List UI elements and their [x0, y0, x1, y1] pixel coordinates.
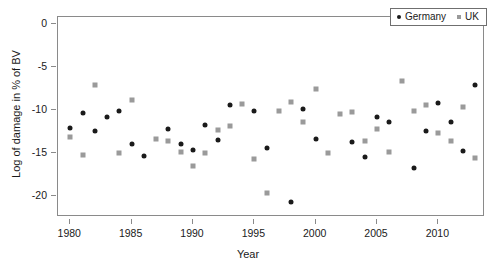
data-point-germany	[178, 142, 183, 147]
data-point-uk	[117, 151, 122, 156]
data-point-germany	[166, 126, 171, 131]
data-point-uk	[276, 108, 281, 113]
data-point-germany	[215, 137, 220, 142]
data-point-germany	[68, 125, 73, 130]
x-tick-mark	[253, 219, 254, 224]
data-point-germany	[387, 119, 392, 124]
x-tick-label: 2010	[426, 227, 449, 239]
data-point-germany	[362, 154, 367, 159]
data-point-germany	[141, 154, 146, 159]
data-point-uk	[190, 163, 195, 168]
y-axis-label: Log of damage in % of BV	[10, 19, 22, 209]
y-tick-mark	[51, 152, 56, 153]
x-tick-label: 1980	[58, 227, 81, 239]
data-point-uk	[460, 105, 465, 110]
x-tick-mark	[131, 219, 132, 224]
x-tick-mark	[376, 219, 377, 224]
legend-label-germany: Germany	[405, 12, 446, 22]
x-tick-mark	[315, 219, 316, 224]
square-marker-icon	[457, 15, 461, 19]
data-point-uk	[92, 82, 97, 87]
legend-entry-germany: Germany	[397, 12, 446, 22]
y-tick-mark	[51, 195, 56, 196]
y-tick-mark	[51, 66, 56, 67]
data-point-uk	[240, 101, 245, 106]
data-point-uk	[203, 150, 208, 155]
data-point-germany	[264, 146, 269, 151]
data-point-uk	[301, 119, 306, 124]
legend: Germany UK	[390, 8, 487, 26]
x-tick-label: 1990	[180, 227, 203, 239]
data-point-germany	[350, 140, 355, 145]
x-tick-label: 2005	[364, 227, 387, 239]
legend-label-uk: UK	[465, 12, 479, 22]
data-point-uk	[68, 135, 73, 140]
data-point-uk	[227, 124, 232, 129]
data-point-germany	[411, 166, 416, 171]
data-point-germany	[252, 109, 257, 114]
data-point-germany	[227, 103, 232, 108]
circle-marker-icon	[397, 15, 401, 19]
data-point-germany	[313, 136, 318, 141]
data-point-uk	[473, 155, 478, 160]
data-point-uk	[411, 108, 416, 113]
data-point-uk	[448, 139, 453, 144]
data-point-germany	[460, 148, 465, 153]
data-point-germany	[203, 123, 208, 128]
data-point-uk	[178, 149, 183, 154]
data-point-uk	[129, 98, 134, 103]
data-point-germany	[375, 115, 380, 120]
data-point-uk	[436, 130, 441, 135]
data-point-germany	[80, 111, 85, 116]
data-point-germany	[473, 82, 478, 87]
y-tick-mark	[51, 109, 56, 110]
x-tick-label: 1985	[119, 227, 142, 239]
data-point-germany	[129, 142, 134, 147]
data-point-uk	[215, 128, 220, 133]
data-point-germany	[289, 200, 294, 205]
data-point-germany	[117, 109, 122, 114]
data-point-uk	[375, 127, 380, 132]
data-point-germany	[436, 100, 441, 105]
x-axis-label: Year	[0, 248, 496, 260]
data-point-uk	[399, 78, 404, 83]
data-point-germany	[448, 119, 453, 124]
y-tick-mark	[51, 23, 56, 24]
data-point-germany	[92, 129, 97, 134]
data-point-uk	[80, 153, 85, 158]
data-point-uk	[338, 112, 343, 117]
data-point-uk	[362, 139, 367, 144]
data-point-germany	[424, 129, 429, 134]
data-point-uk	[154, 136, 159, 141]
x-tick-label: 1995	[242, 227, 265, 239]
x-tick-mark	[192, 219, 193, 224]
plot-area	[57, 16, 484, 216]
data-point-uk	[387, 149, 392, 154]
data-point-uk	[166, 139, 171, 144]
data-point-uk	[252, 157, 257, 162]
data-point-germany	[105, 114, 110, 119]
data-point-uk	[313, 87, 318, 92]
data-point-uk	[350, 110, 355, 115]
data-point-germany	[190, 148, 195, 153]
x-tick-mark	[69, 219, 70, 224]
data-points-layer	[58, 17, 483, 215]
data-point-uk	[289, 99, 294, 104]
x-tick-label: 2000	[303, 227, 326, 239]
data-point-germany	[301, 106, 306, 111]
scatter-plot-figure: 1980198519901995200020052010 0-5-10-15-2…	[0, 0, 496, 269]
data-point-uk	[424, 102, 429, 107]
data-point-uk	[264, 190, 269, 195]
legend-entry-uk: UK	[457, 12, 479, 22]
data-point-uk	[325, 150, 330, 155]
x-tick-mark	[437, 219, 438, 224]
